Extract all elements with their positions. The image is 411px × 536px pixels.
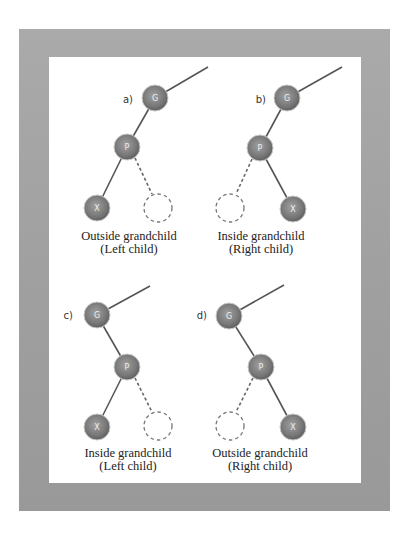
- panel-label: c): [64, 310, 73, 321]
- panel-label: a): [123, 94, 133, 105]
- grandparent-letter: G: [284, 94, 290, 103]
- caption-line-1: Inside grandchild: [217, 229, 305, 243]
- parent-letter: P: [258, 144, 263, 153]
- grandparent-letter: G: [94, 311, 100, 320]
- child-letter: X: [290, 205, 296, 214]
- caption-line-1: Outside grandchild: [81, 229, 177, 243]
- child-letter: X: [290, 423, 296, 432]
- grandparent-letter: G: [226, 312, 232, 321]
- parent-letter: P: [125, 143, 130, 152]
- caption-line-1: Outside grandchild: [212, 446, 308, 460]
- child-letter: X: [94, 423, 100, 432]
- caption-line-2: (Left child): [99, 459, 156, 473]
- grandparent-letter: G: [152, 94, 158, 103]
- parent-letter: P: [259, 363, 264, 372]
- panel-label: d): [197, 310, 207, 321]
- caption-line-2: (Right child): [229, 242, 293, 256]
- caption-line-1: Inside grandchild: [84, 446, 172, 460]
- parent-letter: P: [125, 363, 130, 372]
- child-letter: X: [94, 204, 100, 213]
- caption-line-2: (Left child): [100, 242, 157, 256]
- diagram-canvas: a) G P X Outside grandchild (Left child)…: [0, 0, 411, 536]
- caption-line-2: (Right child): [228, 459, 292, 473]
- panel-label: b): [256, 94, 266, 105]
